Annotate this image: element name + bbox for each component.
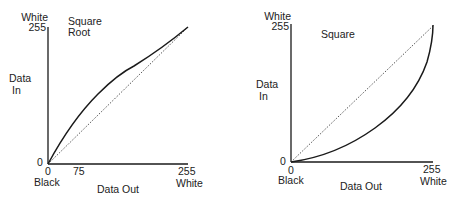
right-reference-diagonal [291,25,434,162]
left-x-end-name: White [176,178,203,189]
left-reference-diagonal [48,27,188,164]
square-curve [291,25,433,162]
transfer-curves-figure: White 255 Square Root Data In 0 0 75 Bla… [0,0,456,201]
right-y-label-line1: Data [256,79,278,90]
left-title-line2: Root [68,27,90,38]
left-x-end-value: 255 [178,166,196,177]
right-y-top-value: 255 [259,21,289,32]
square-plot [291,24,434,162]
right-y-bottom-value: 0 [280,156,286,167]
left-y-top-value: 255 [16,22,46,33]
left-x-label: Data Out [86,184,150,195]
left-x-origin-name: Black [34,177,60,188]
left-y-label-line1: Data [9,73,31,84]
right-title: Square [321,29,355,40]
right-x-end-value: 255 [423,164,441,175]
right-x-label: Data Out [329,181,393,192]
square-root-plot [48,27,188,164]
right-y-label-line2: In [259,91,268,102]
right-x-end-name: White [420,176,447,187]
left-y-bottom-value: 0 [37,157,43,168]
left-x-mid-tick: 75 [73,166,85,177]
right-x-origin-name: Black [278,175,304,186]
left-y-label-line2: In [12,85,21,96]
